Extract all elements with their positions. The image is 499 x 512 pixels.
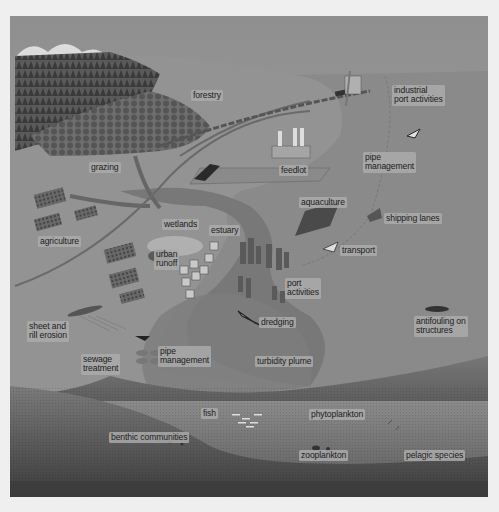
- label-pelagic-species: pelagic species: [404, 450, 465, 461]
- label-agriculture: agriculture: [38, 236, 81, 247]
- label-sewage-treatment: sewage treatment: [81, 354, 120, 375]
- label-forestry: forestry: [191, 90, 223, 101]
- label-pipe-management-coast: pipe management: [363, 152, 416, 173]
- label-phytoplankton: phytoplankton: [309, 409, 365, 420]
- label-benthic-communities: benthic communities: [109, 432, 189, 443]
- label-industrial-port: industrial port activities: [392, 85, 445, 106]
- label-urban-runoff: urban runoff: [154, 249, 179, 270]
- label-dredging: dredging: [259, 317, 296, 328]
- label-pipe-management-land: pipe management: [158, 346, 211, 367]
- label-fish: fish: [201, 408, 218, 419]
- diagram-frame: forestry grazing feedlot agriculture wet…: [10, 16, 488, 497]
- label-aquaculture: aquaculture: [299, 197, 347, 208]
- label-feedlot: feedlot: [279, 165, 308, 176]
- label-antifouling: antifouling on structures: [414, 316, 468, 337]
- label-estuary: estuary: [209, 225, 240, 236]
- label-grazing: grazing: [89, 162, 121, 173]
- label-sheet-rill-erosion: sheet and rill erosion: [27, 321, 69, 342]
- label-shipping-lanes: shipping lanes: [384, 213, 442, 224]
- label-port-activities: port activities: [285, 278, 321, 299]
- label-zooplankton: zooplankton: [299, 450, 348, 461]
- label-turbidity-plume: turbidity plume: [255, 356, 313, 367]
- label-transport: transport: [340, 245, 377, 256]
- label-wetlands: wetlands: [162, 219, 199, 230]
